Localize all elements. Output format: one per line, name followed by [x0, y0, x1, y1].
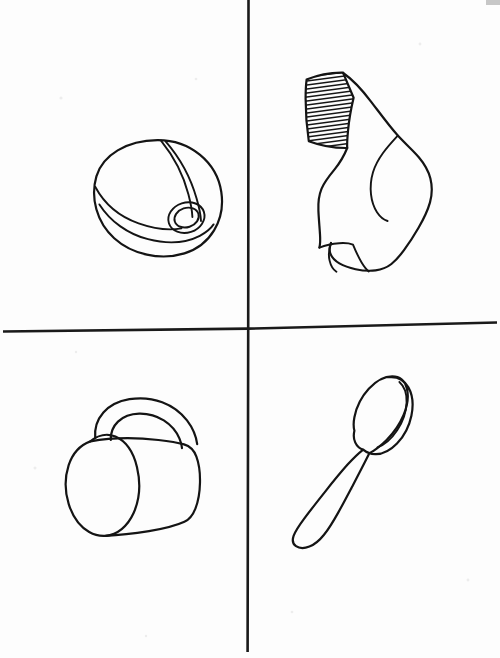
drawing-canvas	[0, 0, 500, 658]
quadrant-top-right-area	[249, 0, 500, 328]
quadrant-top-left	[0, 0, 248, 328]
quadrant-bottom-right-area	[249, 330, 500, 658]
drawing-sheet	[0, 0, 500, 658]
quadrant-bottom-right	[249, 330, 500, 658]
quadrant-bottom-left	[0, 330, 248, 658]
quadrant-top-right	[249, 0, 500, 328]
quadrant-bottom-left-area	[0, 330, 248, 658]
quadrant-top-left-area	[0, 0, 248, 328]
